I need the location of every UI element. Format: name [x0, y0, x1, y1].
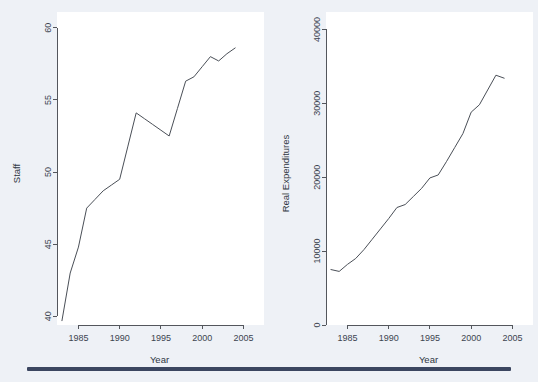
real-expenditures-x-tick-label: 1995 — [420, 333, 440, 343]
staff-plot-background — [57, 12, 264, 325]
figure-container: 404550556019851990199520002005YearStaff … — [0, 0, 538, 382]
real-expenditures-y-tick-label: 40000 — [312, 17, 322, 42]
real-expenditures-chart-svg: 0100002000030000400001985199019952000200… — [269, 0, 538, 382]
real-expenditures-plot-background — [326, 12, 533, 325]
real-expenditures-y-tick-label: 30000 — [312, 91, 322, 116]
staff-x-tick-label: 1990 — [110, 333, 130, 343]
staff-x-tick-label: 2000 — [192, 333, 212, 343]
staff-y-tick-label: 55 — [43, 95, 53, 105]
staff-y-tick-label: 60 — [43, 23, 53, 33]
staff-x-axis-title: Year — [150, 354, 169, 365]
real-expenditures-x-axis-title: Year — [419, 354, 438, 365]
real-expenditures-x-tick-label: 1985 — [337, 333, 357, 343]
real-expenditures-x-tick-label: 2000 — [461, 333, 481, 343]
real-expenditures-y-tick-label: 0 — [312, 322, 322, 327]
real-expenditures-y-axis-title: Real Expenditures — [280, 134, 291, 212]
staff-y-axis-title: Staff — [11, 163, 22, 183]
staff-x-tick-label: 2005 — [233, 333, 253, 343]
staff-y-tick-label: 40 — [43, 311, 53, 321]
real-expenditures-x-tick-label: 1990 — [379, 333, 399, 343]
staff-chart-svg: 404550556019851990199520002005YearStaff — [0, 0, 269, 382]
real-expenditures-panel: 0100002000030000400001985199019952000200… — [269, 0, 538, 382]
real-expenditures-y-tick-label: 10000 — [312, 239, 322, 264]
real-expenditures-y-tick-label: 20000 — [312, 165, 322, 190]
bottom-horizontal-rule — [27, 367, 511, 371]
staff-y-tick-label: 50 — [43, 167, 53, 177]
staff-panel: 404550556019851990199520002005YearStaff — [0, 0, 269, 382]
staff-y-tick-label: 45 — [43, 239, 53, 249]
real-expenditures-x-tick-label: 2005 — [502, 333, 522, 343]
staff-x-tick-label: 1985 — [68, 333, 88, 343]
staff-x-tick-label: 1995 — [151, 333, 171, 343]
